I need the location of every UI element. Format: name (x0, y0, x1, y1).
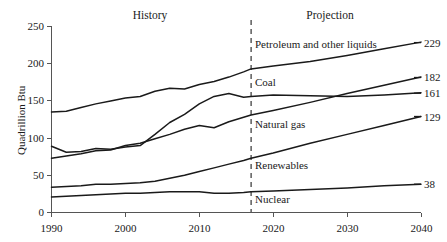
chart-canvas (0, 0, 447, 242)
projection-label: Projection (290, 10, 370, 22)
x-tick-marks (52, 213, 422, 218)
y-tick-label-0: 0 (10, 207, 44, 218)
x-tick-label-1990: 1990 (31, 223, 72, 234)
x-tick-label-2020: 2020 (253, 223, 294, 234)
end-value-leaders (414, 43, 421, 185)
x-tick-label-2000: 2000 (105, 223, 146, 234)
end-value-coal: 161 (424, 88, 441, 99)
series-label-petroleum: Petroleum and other liquids (255, 39, 377, 50)
series-label-coal: Coal (255, 77, 276, 88)
series-line-nuclear (52, 184, 422, 197)
y-tick-label-50: 50 (10, 170, 44, 181)
end-value-petroleum: 229 (424, 38, 441, 49)
x-tick-label-2040: 2040 (401, 223, 442, 234)
y-tick-label-250: 250 (10, 21, 44, 32)
series-line-renewables (52, 117, 422, 188)
end-value-renewables: 129 (424, 112, 441, 123)
series-line-petroleum-and-other-liquids (52, 42, 422, 112)
series-label-renewables: Renewables (255, 160, 308, 171)
y-tick-marks (47, 27, 52, 213)
y-tick-label-150: 150 (10, 95, 44, 106)
series-label-natural-gas: Natural gas (255, 119, 305, 130)
history-label: History (110, 10, 190, 22)
series-group (52, 42, 422, 197)
y-tick-label-100: 100 (10, 133, 44, 144)
energy-consumption-line-chart: Quadrillion Btu 250 200 150 100 50 0 199… (0, 0, 447, 242)
x-tick-label-2030: 2030 (327, 223, 368, 234)
series-line-natural-gas (52, 77, 422, 158)
x-tick-label-2010: 2010 (179, 223, 220, 234)
y-tick-label-200: 200 (10, 58, 44, 69)
series-label-nuclear: Nuclear (255, 194, 290, 205)
end-value-natural-gas: 182 (424, 72, 441, 83)
end-value-nuclear: 38 (424, 179, 435, 190)
